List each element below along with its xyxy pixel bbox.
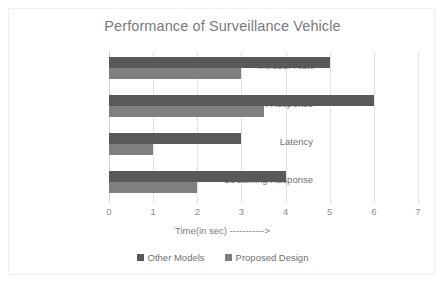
x-tick-label: 4 bbox=[283, 206, 288, 217]
bar-proposed-design bbox=[109, 144, 153, 155]
bar-proposed-design bbox=[109, 68, 241, 79]
legend-item-proposed-design: Proposed Design bbox=[225, 252, 309, 263]
bar-group: Streaming Response bbox=[109, 165, 418, 203]
bar-proposed-design bbox=[109, 182, 197, 193]
legend-label: Other Models bbox=[148, 252, 205, 263]
bar-other-models bbox=[109, 95, 374, 106]
chart-container: Performance of Surveillance Vehicle 0 1 … bbox=[8, 8, 435, 275]
bar-other-models bbox=[109, 171, 286, 182]
x-axis-title: Time(in sec) -----------> bbox=[9, 225, 436, 236]
bar-other-models bbox=[109, 57, 330, 68]
x-tick-label: 1 bbox=[150, 206, 155, 217]
bar-group: Latency bbox=[109, 127, 418, 165]
chart-title: Performance of Surveillance Vehicle bbox=[9, 18, 436, 34]
bar-other-models bbox=[109, 133, 241, 144]
legend-item-other-models: Other Models bbox=[137, 252, 205, 263]
gridline-7 bbox=[418, 51, 419, 203]
legend-swatch-icon bbox=[137, 254, 144, 261]
x-tick-label: 7 bbox=[415, 206, 420, 217]
x-tick-label: 2 bbox=[195, 206, 200, 217]
x-tick-label: 5 bbox=[327, 206, 332, 217]
bar-group: Detection Response bbox=[109, 89, 418, 127]
chart-legend: Other Models Proposed Design bbox=[9, 252, 436, 263]
legend-swatch-icon bbox=[225, 254, 232, 261]
legend-label: Proposed Design bbox=[236, 252, 309, 263]
bar-group: Intruder Alert bbox=[109, 51, 418, 89]
x-tick-label: 6 bbox=[371, 206, 376, 217]
x-tick-label: 3 bbox=[239, 206, 244, 217]
bar-proposed-design bbox=[109, 106, 264, 117]
x-tick-label: 0 bbox=[106, 206, 111, 217]
plot-area: 0 1 2 3 4 5 6 7 Intruder Alert Detection… bbox=[109, 51, 418, 203]
